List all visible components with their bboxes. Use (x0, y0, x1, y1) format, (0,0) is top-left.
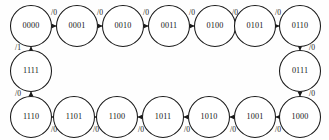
transition-output-label: /0 (15, 89, 21, 98)
transition-output-label: /0 (275, 8, 281, 17)
state-node[interactable]: 1001 (235, 97, 276, 138)
state-node[interactable]: 0010 (103, 6, 144, 47)
arrow-head (138, 114, 143, 119)
state-node[interactable]: 1100 (97, 97, 138, 138)
transition-output-label: /1 (15, 43, 21, 52)
state-node[interactable]: 0100 (195, 6, 236, 47)
transition-output-label: /0 (309, 89, 315, 98)
state-label: 0010 (115, 21, 132, 30)
arrow-head (190, 23, 195, 28)
transition-output-label: /0 (97, 8, 103, 17)
state-node[interactable]: 0101 (235, 6, 276, 47)
state-label: 0001 (69, 21, 86, 30)
state-node[interactable]: 0110 (280, 6, 321, 47)
state-label: 1110 (23, 112, 39, 121)
arrow-head (28, 92, 33, 97)
state-label: 1101 (66, 112, 82, 121)
state-label: 0111 (292, 66, 308, 75)
state-label: 1000 (292, 112, 309, 121)
state-node[interactable]: 0001 (57, 6, 98, 47)
arrow-head (297, 92, 302, 97)
state-label: 0101 (247, 21, 264, 30)
state-label: 1100 (109, 112, 125, 121)
transition-output-label: /0 (275, 125, 281, 134)
state-node[interactable]: 0000 (11, 6, 52, 47)
transition-output-label: /0 (184, 125, 190, 134)
state-node[interactable]: 0011 (149, 6, 190, 47)
state-node[interactable]: 1000 (280, 97, 321, 138)
transition-output-label: /0 (138, 125, 144, 134)
state-node[interactable]: 1101 (54, 97, 95, 138)
transition-output-label: /0 (230, 125, 236, 134)
state-node[interactable]: 1110 (11, 97, 52, 138)
state-node[interactable]: 0111 (280, 51, 321, 92)
transition-output-label: /0 (51, 8, 57, 17)
state-node[interactable]: 1111 (11, 51, 52, 92)
fsm-canvas: /0/0/0/0/0/0/0/0/0/0/0/0/0/0/0/100000001… (0, 0, 329, 140)
arrow-head (230, 114, 235, 119)
state-label: 0011 (161, 21, 177, 30)
transition-output-label: /0 (143, 8, 149, 17)
state-label: 1011 (155, 112, 171, 121)
arrow-head (52, 23, 57, 28)
state-transition-diagram: /0/0/0/0/0/0/0/0/0/0/0/0/0/0/0/100000001… (0, 0, 329, 140)
arrow-head (144, 23, 149, 28)
arrow-head (98, 23, 103, 28)
transition-output-label: /0 (189, 8, 195, 17)
state-label: 1010 (201, 112, 218, 121)
arrow-head (184, 114, 189, 119)
state-label: 0100 (207, 21, 224, 30)
state-label: 0000 (23, 21, 40, 30)
state-label: 0110 (292, 21, 308, 30)
state-node[interactable]: 1011 (143, 97, 184, 138)
state-node[interactable]: 1010 (189, 97, 230, 138)
state-label: 1001 (247, 112, 264, 121)
state-label: 1111 (23, 66, 39, 75)
